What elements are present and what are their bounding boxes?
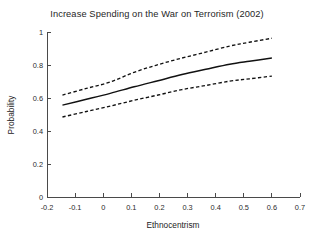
x-tick-label: 0 xyxy=(101,203,105,212)
y-tick-label: 0 xyxy=(39,193,43,202)
series-line-0 xyxy=(62,38,271,95)
x-tick-label: 0.3 xyxy=(182,203,192,212)
x-tick-label: 0.1 xyxy=(126,203,136,212)
y-axis-title: Probability xyxy=(6,95,16,135)
chart-container: Increase Spending on the War on Terroris… xyxy=(0,0,314,235)
x-axis-title: Ethnocentrism xyxy=(146,220,199,230)
y-axis-ticks: 00.20.40.60.81 xyxy=(33,28,51,202)
y-tick-label: 0.6 xyxy=(33,94,43,103)
x-tick-label: 0.2 xyxy=(154,203,164,212)
y-tick-label: 1 xyxy=(39,28,43,37)
series-group xyxy=(62,38,271,117)
x-tick-label: -0.1 xyxy=(69,203,82,212)
x-tick-label: -0.2 xyxy=(41,203,54,212)
series-line-1 xyxy=(62,58,271,105)
plot-area: 00.20.40.60.81 -0.2-0.100.10.20.30.40.50… xyxy=(0,0,314,235)
x-tick-label: 0.6 xyxy=(267,203,277,212)
series-line-2 xyxy=(62,76,271,117)
y-tick-label: 0.4 xyxy=(33,127,43,136)
x-tick-label: 0.7 xyxy=(295,203,305,212)
x-tick-label: 0.5 xyxy=(239,203,249,212)
x-axis-ticks: -0.2-0.100.10.20.30.40.50.60.7 xyxy=(41,193,306,212)
x-tick-label: 0.4 xyxy=(211,203,221,212)
y-tick-label: 0.8 xyxy=(33,61,43,70)
y-tick-label: 0.2 xyxy=(33,160,43,169)
